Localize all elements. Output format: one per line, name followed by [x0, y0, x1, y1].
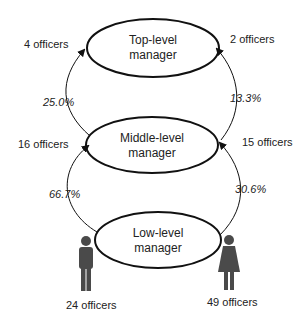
- middle-level-line1: Middle-level: [102, 131, 202, 146]
- low-level-label: Low-level manager: [108, 226, 208, 256]
- right-top-count: 2 officers: [230, 33, 274, 45]
- middle-level-label: Middle-level manager: [102, 131, 202, 161]
- right-middle-pct: 30.6%: [235, 183, 266, 195]
- middle-level-line2: manager: [102, 146, 202, 161]
- top-level-line1: Top-level: [103, 33, 203, 48]
- right-top-pct: 13.3%: [230, 92, 261, 104]
- arrow-left-middle-to-top: [66, 50, 90, 136]
- left-middle-pct: 66.7%: [49, 188, 80, 200]
- right-middle-count: 15 officers: [242, 136, 293, 148]
- low-level-line2: manager: [108, 241, 208, 256]
- left-middle-count: 16 officers: [18, 138, 69, 150]
- right-base-count: 49 officers: [207, 296, 258, 308]
- low-level-line1: Low-level: [108, 226, 208, 241]
- top-level-line2: manager: [103, 48, 203, 63]
- left-top-count: 4 officers: [24, 38, 68, 50]
- left-top-pct: 25.0%: [43, 96, 74, 108]
- male-figure-icon: [79, 236, 93, 291]
- top-level-label: Top-level manager: [103, 33, 203, 63]
- left-base-count: 24 officers: [66, 299, 117, 311]
